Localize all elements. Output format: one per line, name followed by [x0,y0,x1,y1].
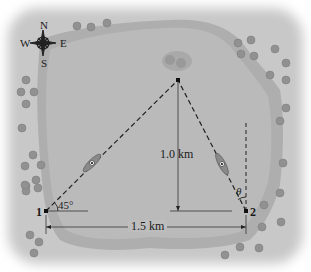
angle-theta-label: θ [236,186,241,197]
target-point-marker [176,78,180,82]
lake-diagram: N S W E 1 2 1.0 km 1.5 km 45° θ [0,0,311,272]
horizontal-distance-label: 1.5 km [128,220,167,232]
point-1-marker [44,209,48,213]
point-2-marker [244,209,248,213]
vertical-distance-label: 1.0 km [160,148,193,160]
compass-east-label: E [60,38,67,49]
angle-45-label: 45° [58,200,73,211]
lake [46,28,271,240]
point-1-label: 1 [36,206,42,218]
island-rocks [162,51,192,71]
compass-west-label: W [20,38,30,49]
point-2-label: 2 [250,206,256,218]
compass-north-label: N [40,20,48,31]
compass-south-label: S [41,58,47,69]
